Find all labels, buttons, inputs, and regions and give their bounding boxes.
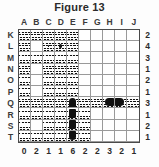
grid-cell-hr[interactable]: [103, 108, 115, 119]
grid-cell-bp[interactable]: [31, 86, 43, 97]
grid-cell-fp[interactable]: [79, 86, 91, 97]
grid-cell-gp[interactable]: [91, 86, 103, 97]
grid-cell-jm[interactable]: [127, 52, 139, 63]
grid-cell-et[interactable]: [67, 131, 79, 142]
grid-cell-water-dq[interactable]: [55, 97, 67, 108]
grid-cell-eq[interactable]: [67, 97, 79, 108]
grid-cell-hn[interactable]: [103, 64, 115, 75]
grid-cell-go[interactable]: [91, 75, 103, 86]
grid-cell-water-fr[interactable]: [79, 108, 91, 119]
grid-cell-water-an[interactable]: [19, 64, 31, 75]
grid-cell-water-cs[interactable]: [43, 120, 55, 131]
grid-cell-water-dn[interactable]: [55, 64, 67, 75]
grid-cell-gl[interactable]: [91, 41, 103, 52]
grid-cell-water-ct[interactable]: [43, 131, 55, 142]
grid-cell-water-bq[interactable]: [31, 97, 43, 108]
grid-cell-gm[interactable]: [91, 52, 103, 63]
grid-cell-er[interactable]: [67, 108, 79, 119]
grid-cell-water-do[interactable]: [55, 75, 67, 86]
grid-cell-water-dt[interactable]: [55, 131, 67, 142]
grid-cell-water-dm[interactable]: [55, 52, 67, 63]
grid-cell-es[interactable]: [67, 120, 79, 131]
grid-cell-water-ek[interactable]: [67, 30, 79, 41]
grid-cell-water-cq[interactable]: [43, 97, 55, 108]
grid-cell-io[interactable]: [115, 75, 127, 86]
grid-cell-water-el[interactable]: [67, 41, 79, 52]
grid-cell-water-en[interactable]: [67, 64, 79, 75]
grid-cell-gn[interactable]: [91, 64, 103, 75]
grid-cell-water-bm[interactable]: [31, 52, 43, 63]
grid-cell-water-fq[interactable]: [79, 97, 91, 108]
grid-cell-water-dk[interactable]: [55, 30, 67, 41]
grid-cell-bs[interactable]: [31, 120, 43, 131]
grid-cell-hs[interactable]: [103, 120, 115, 131]
grid-cell-water-ft[interactable]: [79, 131, 91, 142]
grid-cell-water-bk[interactable]: [31, 30, 43, 41]
grid-cell-water-ep[interactable]: [67, 86, 79, 97]
grid-cell-fo[interactable]: [79, 75, 91, 86]
grid-cell-ht[interactable]: [103, 131, 115, 142]
grid-cell-im[interactable]: [115, 52, 127, 63]
grid-cell-water-al[interactable]: [19, 41, 31, 52]
grid-cell-water-ck[interactable]: [43, 30, 55, 41]
grid-cell-bn[interactable]: [31, 64, 43, 75]
grid-cell-water-am[interactable]: [19, 52, 31, 63]
grid-cell-water-aq[interactable]: [19, 97, 31, 108]
grid-cell-water-cn[interactable]: [43, 64, 55, 75]
grid-cell-water-ak[interactable]: [19, 30, 31, 41]
grid-cell-dl[interactable]: [55, 41, 67, 52]
grid-cell-bo[interactable]: [31, 75, 43, 86]
grid-cell-hl[interactable]: [103, 41, 115, 52]
grid-cell-water-ap[interactable]: [19, 86, 31, 97]
grid-cell-hp[interactable]: [103, 86, 115, 97]
grid-cell-bl[interactable]: [31, 41, 43, 52]
grid-cell-water-em[interactable]: [67, 52, 79, 63]
grid-cell-water-gq[interactable]: [91, 97, 103, 108]
grid-cell-jo[interactable]: [127, 75, 139, 86]
grid-cell-it[interactable]: [115, 131, 127, 142]
grid-cell-water-as[interactable]: [19, 120, 31, 131]
grid-cell-hm[interactable]: [103, 52, 115, 63]
grid-cell-water-dp[interactable]: [55, 86, 67, 97]
grid-cell-gs[interactable]: [91, 120, 103, 131]
grid-cell-water-cp[interactable]: [43, 86, 55, 97]
grid-cell-jt[interactable]: [127, 131, 139, 142]
grid-cell-ho[interactable]: [103, 75, 115, 86]
grid-cell-jl[interactable]: [127, 41, 139, 52]
grid-cell-jk[interactable]: [127, 30, 139, 41]
grid-cell-il[interactable]: [115, 41, 127, 52]
grid-cell-water-ar[interactable]: [19, 108, 31, 119]
grid-cell-ip[interactable]: [115, 86, 127, 97]
grid-cell-fk[interactable]: [79, 30, 91, 41]
grid-cell-gr[interactable]: [91, 108, 103, 119]
grid-cell-water-jq[interactable]: [127, 97, 139, 108]
puzzle-grid[interactable]: [18, 29, 140, 143]
grid-cell-water-br[interactable]: [31, 108, 43, 119]
grid-cell-fm[interactable]: [79, 52, 91, 63]
grid-cell-fl[interactable]: [79, 41, 91, 52]
grid-cell-ir[interactable]: [115, 108, 127, 119]
grid-cell-water-cr[interactable]: [43, 108, 55, 119]
grid-cell-js[interactable]: [127, 120, 139, 131]
grid-cell-jr[interactable]: [127, 108, 139, 119]
grid-cell-is[interactable]: [115, 120, 127, 131]
grid-cell-jp[interactable]: [127, 86, 139, 97]
grid-cell-gt[interactable]: [91, 131, 103, 142]
grid-cell-water-eo[interactable]: [67, 75, 79, 86]
grid-cell-in[interactable]: [115, 64, 127, 75]
grid-cell-hk[interactable]: [103, 30, 115, 41]
grid-cell-cl[interactable]: [43, 41, 55, 52]
grid-cell-fn[interactable]: [79, 64, 91, 75]
grid-cell-water-co[interactable]: [43, 75, 55, 86]
grid-cell-jn[interactable]: [127, 64, 139, 75]
grid-cell-water-ao[interactable]: [19, 75, 31, 86]
grid-cell-water-at[interactable]: [19, 131, 31, 142]
grid-cell-water-cm[interactable]: [43, 52, 55, 63]
grid-cell-gk[interactable]: [91, 30, 103, 41]
grid-cell-hq[interactable]: [103, 97, 115, 108]
grid-cell-water-dr[interactable]: [55, 108, 67, 119]
grid-cell-water-fs[interactable]: [79, 120, 91, 131]
grid-cell-water-bt[interactable]: [31, 131, 43, 142]
grid-cell-water-ds[interactable]: [55, 120, 67, 131]
grid-cell-ik[interactable]: [115, 30, 127, 41]
